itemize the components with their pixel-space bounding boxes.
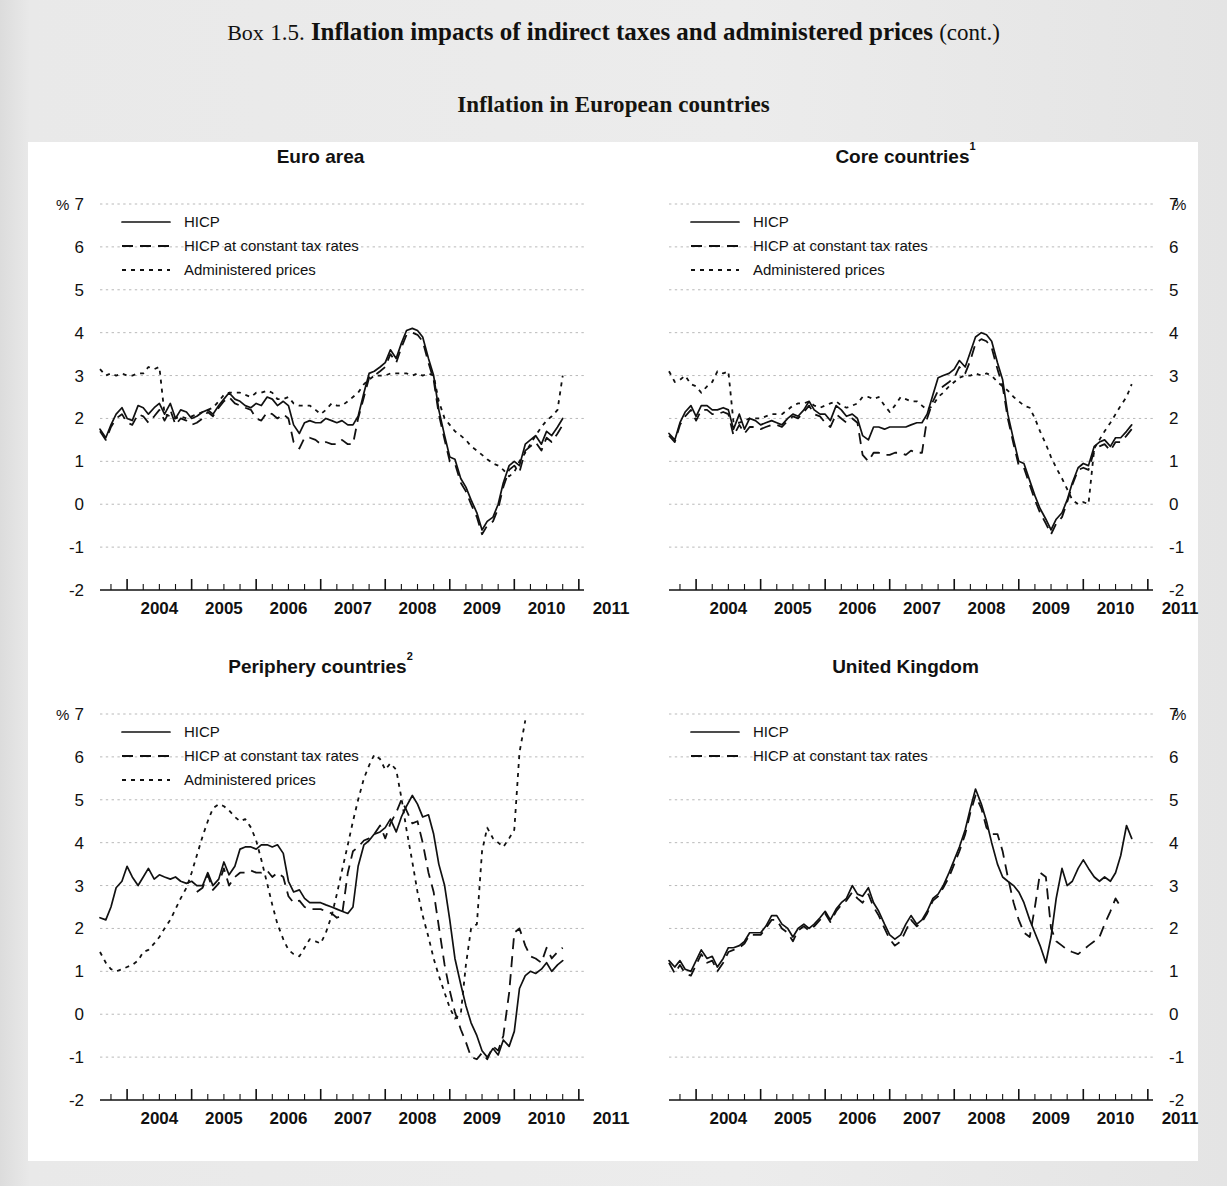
y-tick-label: 2 [1169,919,1178,938]
x-tick-label: 2004 [140,1109,178,1128]
legend-label: HICP [753,213,789,230]
x-tick-label: 2006 [839,1109,877,1128]
x-tick-label: 2008 [399,599,437,618]
footnote-marker: 2 [407,650,413,662]
box-label: Box [227,20,264,45]
y-tick-label: 1 [1169,452,1178,471]
chart-core-countries: Core countries1%-2-101234567200420052006… [613,142,1198,652]
footnote-marker: 1 [969,140,975,152]
x-tick-label: 2008 [968,599,1006,618]
y-tick-label: 5 [75,791,84,810]
x-tick-label: 2006 [270,1109,308,1128]
y-tick-label: -2 [69,1091,84,1110]
y-tick-label: 3 [75,367,84,386]
y-tick-label: 5 [75,281,84,300]
axis-unit-label: % [1173,196,1186,213]
x-tick-label: 2009 [1032,1109,1070,1128]
y-tick-label: 3 [75,877,84,896]
x-tick-label: 2008 [399,1109,437,1128]
x-tick-label: 2005 [774,1109,812,1128]
legend-label: HICP at constant tax rates [753,237,928,254]
y-tick-label: -2 [1169,1091,1184,1110]
x-tick-label: 2009 [463,599,501,618]
y-tick-label: 0 [75,1005,84,1024]
y-tick-label: 6 [1169,748,1178,767]
chart-title-core-countries: Core countries1 [613,146,1198,168]
plot-area-periphery-countries: -2-1012345672004200520062007200820092010… [28,652,613,1161]
y-tick-label: 4 [75,324,84,343]
series-line-dot [100,720,525,1018]
y-tick-label: 1 [75,962,84,981]
series-line-solid [669,789,1132,971]
y-tick-label: 2 [75,919,84,938]
legend-label: Administered prices [184,261,316,278]
y-tick-label: 2 [1169,409,1178,428]
box-header: Box 1.5. Inflation impacts of indirect t… [0,18,1227,46]
x-tick-label: 2011 [1162,1109,1199,1128]
legend-label: HICP [184,213,220,230]
chart-title-united-kingdom: United Kingdom [613,656,1198,678]
series-line-dot [669,371,1132,504]
series-line-solid [100,795,563,1057]
legend-label: HICP at constant tax rates [184,747,359,764]
y-tick-label: 0 [1169,495,1178,514]
series-line-solid [669,333,1132,530]
y-tick-label: 1 [75,452,84,471]
y-tick-label: 4 [1169,834,1178,853]
x-tick-label: 2007 [334,599,372,618]
plot-area-united-kingdom: -2-1012345672004200520062007200820092010… [613,652,1198,1161]
y-tick-label: 3 [1169,877,1178,896]
box-number: 1.5. [270,20,305,45]
box-title: Inflation impacts of indirect taxes and … [311,18,933,45]
box-continued-marker: (cont.) [939,20,1000,45]
x-tick-label: 2007 [903,1109,941,1128]
y-tick-label: -1 [69,538,84,557]
series-line-solid [100,328,563,530]
y-tick-label: 5 [1169,791,1178,810]
x-tick-label: 2009 [1032,599,1070,618]
plot-area-core-countries: -2-1012345672004200520062007200820092010… [613,142,1198,652]
chart-title-euro-area: Euro area [28,146,613,168]
y-tick-label: 1 [1169,962,1178,981]
chart-euro-area: Euro area%-2-101234567200420052006200720… [28,142,613,652]
x-tick-label: 2004 [709,599,747,618]
legend-label: HICP at constant tax rates [184,237,359,254]
y-tick-label: 6 [75,238,84,257]
figure-panel: Euro area%-2-101234567200420052006200720… [28,142,1198,1161]
y-tick-label: 7 [75,195,84,214]
axis-unit-label: % [56,196,69,213]
x-tick-label: 2005 [205,1109,243,1128]
chart-united-kingdom: United Kingdom%-2-1012345672004200520062… [613,652,1198,1161]
series-line-dot [100,367,563,476]
x-tick-label: 2010 [528,1109,566,1128]
x-tick-label: 2007 [334,1109,372,1128]
y-tick-label: -2 [1169,581,1184,600]
y-tick-label: -2 [69,581,84,600]
x-tick-label: 2005 [205,599,243,618]
x-tick-label: 2006 [270,599,308,618]
x-tick-label: 2011 [1162,599,1199,618]
y-tick-label: 2 [75,409,84,428]
axis-unit-label: % [1173,706,1186,723]
x-tick-label: 2006 [839,599,877,618]
y-tick-label: 4 [1169,324,1178,343]
y-tick-label: -1 [1169,1048,1184,1067]
series-line-dash [100,333,563,535]
figure-title: Inflation in European countries [0,92,1227,118]
y-tick-label: 0 [1169,1005,1178,1024]
legend-label: HICP [184,723,220,740]
legend-label: Administered prices [184,771,316,788]
y-tick-label: 0 [75,495,84,514]
axis-unit-label: % [56,706,69,723]
y-tick-label: 5 [1169,281,1178,300]
x-tick-label: 2009 [463,1109,501,1128]
legend-label: HICP [753,723,789,740]
x-tick-label: 2004 [140,599,178,618]
x-tick-label: 2010 [1097,1109,1135,1128]
chart-periphery-countries: Periphery countries2%-2-1012345672004200… [28,652,613,1161]
y-tick-label: -1 [1169,538,1184,557]
y-tick-label: 7 [75,705,84,724]
series-line-dash [197,800,563,1059]
plot-area-euro-area: -2-1012345672004200520062007200820092010… [28,142,613,652]
x-tick-label: 2010 [528,599,566,618]
